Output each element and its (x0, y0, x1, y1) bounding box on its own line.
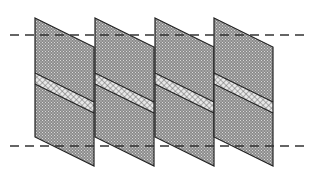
panel-2 (95, 18, 154, 166)
panels-figure (0, 0, 311, 180)
panel-1 (35, 18, 94, 166)
diagram-canvas (0, 0, 311, 180)
panel-4 (214, 18, 273, 166)
panel-3 (155, 18, 214, 166)
panels-group (35, 18, 273, 166)
